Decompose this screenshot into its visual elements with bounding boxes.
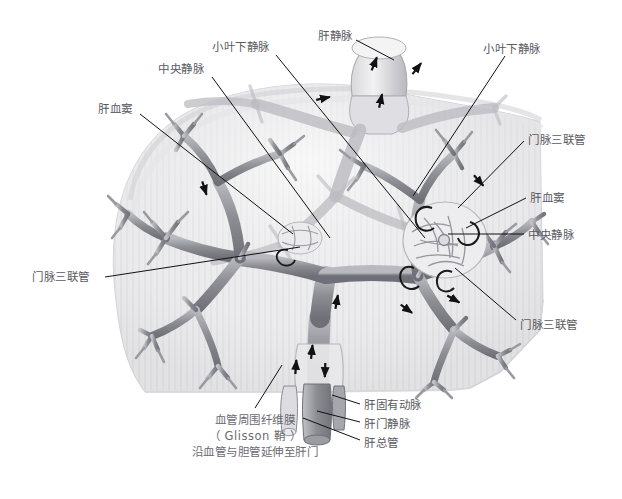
label-central-vein-top: 中央静脉 bbox=[158, 62, 204, 76]
label-portal-triad-right-top: 门脉三联管 bbox=[528, 133, 586, 147]
label-hepatic-portal-vein: 肝门静脉 bbox=[364, 417, 410, 431]
label-hepatic-sinusoid-left: 肝血窦 bbox=[98, 102, 133, 116]
label-proper-hepatic-artery: 肝固有动脉 bbox=[364, 398, 422, 412]
flow-arrow-artery-up bbox=[295, 360, 296, 374]
caption-line-1: 血管周围纤维膜 bbox=[185, 412, 325, 428]
label-sublobular-vein-top: 小叶下静脉 bbox=[212, 40, 270, 54]
label-sublobular-vein-right: 小叶下静脉 bbox=[483, 42, 541, 56]
label-portal-triad-left: 门脉三联管 bbox=[32, 270, 90, 284]
label-hepatic-vein: 肝静脉 bbox=[318, 29, 353, 43]
caption-line-2: （ Glisson 鞘 ） bbox=[185, 428, 325, 444]
label-central-vein-right: 中央静脉 bbox=[528, 228, 574, 242]
inferior-vena-cava bbox=[350, 37, 409, 134]
caption-line-3: 沿血管与胆管延伸至肝门 bbox=[185, 444, 325, 460]
figure-canvas: 中央静脉小叶下静脉肝静脉小叶下静脉肝血窦门脉三联管肝血窦中央静脉门脉三联管门脉三… bbox=[0, 0, 622, 499]
glisson-caption: 血管周围纤维膜 （ Glisson 鞘 ） 沿血管与胆管延伸至肝门 bbox=[185, 412, 325, 460]
label-portal-triad-right-bot: 门脉三联管 bbox=[520, 318, 578, 332]
flow-arrow-portal-trunk bbox=[311, 345, 312, 359]
flow-arrow-hv-branch bbox=[412, 63, 421, 74]
label-common-hepatic-duct: 肝总管 bbox=[364, 436, 399, 450]
label-hepatic-sinusoid-right: 肝血窦 bbox=[530, 191, 565, 205]
